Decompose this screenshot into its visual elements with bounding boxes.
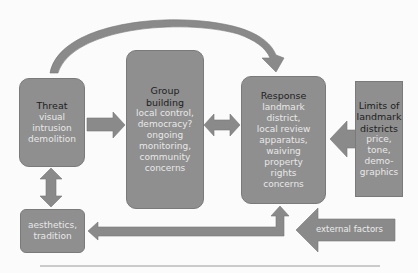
- node-aesthetics: aesthetics, tradition: [20, 209, 85, 253]
- double-arrow-threat-aesthetics: [40, 168, 62, 207]
- group-title: building: [146, 97, 184, 109]
- response-line: concerns: [263, 179, 304, 190]
- response-line: apparatus,: [259, 135, 307, 146]
- aesthetics-line: aesthetics,: [28, 220, 77, 231]
- threat-line: visual: [39, 112, 65, 123]
- group-line: concerns: [145, 163, 186, 174]
- group-line: democracy?: [138, 119, 193, 130]
- node-response: Response landmark district, local review…: [241, 76, 326, 204]
- double-arrow-group-response: [204, 114, 240, 136]
- group-line: local control,: [136, 108, 194, 119]
- response-line: waiving: [266, 146, 301, 157]
- limits-title: districts: [360, 123, 398, 135]
- response-line: district,: [267, 113, 301, 124]
- group-line: ongoing: [147, 130, 183, 141]
- threat-title: Threat: [37, 100, 68, 112]
- external-factors-label: external factors: [316, 224, 383, 234]
- limits-line: demo-: [365, 156, 394, 167]
- aesthetics-line: tradition: [33, 231, 71, 242]
- arrow-threat-to-group: [87, 112, 125, 138]
- response-line: rights: [271, 168, 297, 179]
- limits-line: tone,: [367, 145, 390, 156]
- response-title: Response: [261, 90, 307, 102]
- threat-line: intrusion: [32, 123, 72, 134]
- limits-line: graphics: [360, 167, 398, 178]
- arrow-limits-to-response: [330, 121, 356, 157]
- response-line: local review: [257, 124, 311, 135]
- node-threat: Threat visual intrusion demolition: [19, 78, 85, 167]
- limits-title: landmark: [357, 111, 402, 123]
- limits-title: Limits of: [359, 100, 400, 112]
- elbow-arrow-response-aesthetics: [88, 206, 289, 240]
- threat-line: demolition: [28, 134, 76, 145]
- group-line: monitoring,: [139, 141, 191, 152]
- response-line: property: [264, 157, 303, 168]
- group-line: community: [140, 152, 191, 163]
- group-title: Group: [151, 85, 180, 97]
- node-group-building: Group building local control, democracy?…: [126, 50, 204, 209]
- node-limits: Limits of landmark districts price, tone…: [355, 81, 403, 197]
- limits-line: price,: [366, 134, 391, 145]
- response-line: landmark: [262, 102, 305, 113]
